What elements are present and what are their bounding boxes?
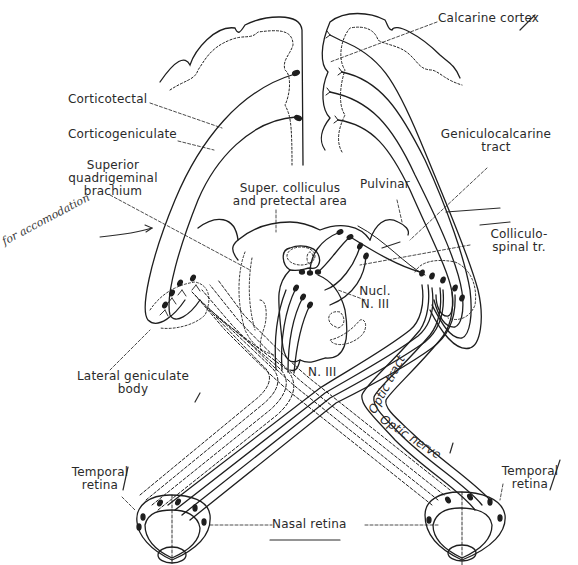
label-nasal-retina: Nasal retina	[272, 518, 347, 531]
label-temporal-retina-right: Temporal retina	[500, 465, 560, 491]
label-pulvinar: Pulvinar	[360, 178, 410, 191]
left-eye-crossing-fibers	[168, 285, 455, 520]
right-eye	[425, 492, 505, 565]
label-trl-line2: retina	[70, 479, 130, 492]
colliculus-fibers	[275, 226, 425, 373]
left-eye	[137, 495, 210, 565]
label-geniculocalcarine-line2: tract	[440, 141, 552, 154]
label-geniculocalcarine-tract: Geniculocalcarine tract	[440, 128, 552, 154]
left-lateral-geniculate-body	[150, 274, 209, 328]
label-cs-line2: spinal tr.	[484, 241, 554, 254]
label-calcarine-cortex: Calcarine cortex	[438, 12, 539, 25]
label-lgb-line2: body	[68, 383, 198, 396]
label-superior-colliculus: Super. colliculus and pretectal area	[225, 182, 355, 208]
label-colliculospinal-tract: Colliculo- spinal tr.	[484, 228, 554, 254]
leader-lines	[110, 22, 503, 525]
label-lateral-geniculate-body: Lateral geniculate body	[68, 370, 198, 396]
left-calcarine-cortex	[160, 17, 303, 165]
annotation-marks	[100, 15, 560, 540]
label-temporal-retina-left: Temporal retina	[70, 466, 130, 492]
label-trr-line2: retina	[500, 478, 560, 491]
label-nucl-line2: N. III	[355, 298, 395, 311]
label-corticotectal: Corticotectal	[68, 93, 147, 106]
label-n3: N. III	[308, 366, 336, 379]
right-eye-crossing-fibers	[195, 280, 450, 505]
label-nucleus-n3: Nucl. N. III	[355, 285, 395, 311]
label-corticogeniculate: Corticogeniculate	[68, 128, 177, 141]
label-sc-line2: and pretectal area	[225, 195, 355, 208]
